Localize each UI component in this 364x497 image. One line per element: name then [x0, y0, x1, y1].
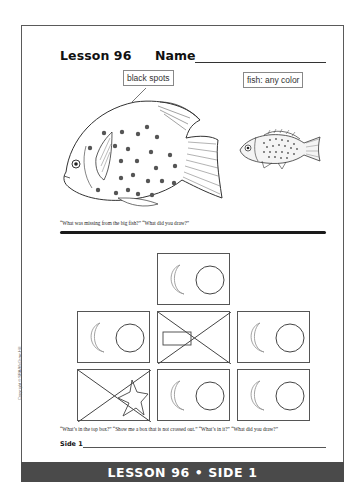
- lesson-title: Lesson 96: [60, 48, 131, 63]
- footer-banner: LESSON 96 • SIDE 1: [21, 462, 344, 482]
- small-fish-label: fish: any color: [243, 72, 303, 88]
- name-write-line[interactable]: [195, 62, 326, 63]
- side-label: Side 1: [60, 440, 83, 448]
- moon-and-circle-icon: [238, 312, 311, 364]
- crossed-rectangle-icon: [158, 312, 231, 364]
- part1-question-caption: “What was missing from the big fish?” “W…: [60, 220, 189, 226]
- box-row1-left[interactable]: [77, 311, 150, 363]
- copyright-notice: Copyright © SRA/McGraw-Hill: [17, 347, 22, 400]
- top-box[interactable]: [157, 253, 230, 305]
- moon-and-circle-icon: [158, 254, 231, 306]
- small-fish-illustration[interactable]: [234, 125, 324, 170]
- section-divider: [60, 231, 326, 234]
- box-row2-right[interactable]: [237, 369, 310, 421]
- big-fish-illustration[interactable]: [40, 80, 230, 210]
- box-row2-left-crossed[interactable]: [77, 369, 150, 421]
- name-label: Name: [155, 48, 195, 63]
- part2-question-caption: “What’s in the top box?” “Show me a box …: [60, 426, 278, 432]
- box-row1-right[interactable]: [237, 311, 310, 363]
- footer-banner-text: LESSON 96 • SIDE 1: [108, 465, 258, 480]
- moon-and-circle-icon: [158, 370, 231, 422]
- moon-and-circle-icon: [78, 312, 151, 364]
- side-write-line[interactable]: [83, 447, 326, 448]
- box-row1-middle-crossed[interactable]: [157, 311, 230, 363]
- moon-and-circle-icon: [238, 370, 311, 422]
- crossed-star-icon: [78, 370, 151, 422]
- box-row2-middle[interactable]: [157, 369, 230, 421]
